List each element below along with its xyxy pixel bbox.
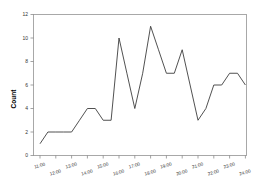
line-chart: Count 0 2 4 6 8 xyxy=(0,0,276,194)
y-tick-label: 6 xyxy=(25,82,28,88)
y-tick-label: 4 xyxy=(25,105,28,111)
y-axis-label-text: Count xyxy=(10,89,17,109)
y-tick-label: 8 xyxy=(25,58,28,64)
y-axis-label: Count xyxy=(10,89,17,109)
chart-canvas: Count 0 2 4 6 8 xyxy=(0,0,276,194)
y-tick-label: 12 xyxy=(22,11,28,17)
y-tick-label: 10 xyxy=(22,35,28,41)
y-tick-label: 2 xyxy=(25,129,28,135)
y-tick-label: 0 xyxy=(25,152,28,158)
